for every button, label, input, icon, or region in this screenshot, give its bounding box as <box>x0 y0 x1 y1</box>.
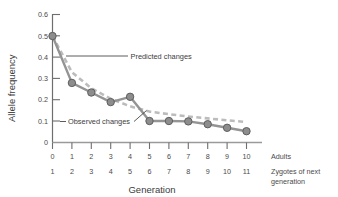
x-tick-zygotes-5: 5 <box>128 167 132 176</box>
x-axis-title: Generation <box>128 184 175 195</box>
x-tick-adults-1: 1 <box>70 152 74 161</box>
series-predicted-changes-line <box>53 36 247 122</box>
observed-changes-label: Observed changes <box>68 117 130 126</box>
data-point <box>243 128 250 135</box>
x-tick-adults-8: 8 <box>206 152 210 161</box>
x-tick-adults-10: 10 <box>243 152 251 161</box>
row-label-adults: Adults <box>271 152 291 161</box>
x-tick-zygotes-2: 2 <box>70 167 74 176</box>
data-point <box>223 124 230 131</box>
data-point <box>185 118 192 125</box>
data-point <box>146 117 153 124</box>
data-point <box>88 89 95 96</box>
x-tick-adults-5: 5 <box>148 152 152 161</box>
x-tick-adults-4: 4 <box>128 152 132 161</box>
data-point <box>165 117 172 124</box>
x-axis-ticks <box>53 143 247 150</box>
row-label-zygotes-line1: Zygotes of next <box>271 167 320 176</box>
allele-frequency-line-chart: 0.6 0.5 0.4 0.3 0.2 0.1 0 Allele frequen… <box>0 0 338 197</box>
x-tick-zygotes-8: 8 <box>186 167 190 176</box>
x-tick-zygotes-10: 10 <box>223 167 231 176</box>
y-tick-label-0: 0 <box>44 138 48 147</box>
y-tick-label-0.6: 0.6 <box>38 10 48 19</box>
y-tick-label-0.3: 0.3 <box>38 74 48 83</box>
data-point <box>204 121 211 128</box>
x-tick-adults-6: 6 <box>167 152 171 161</box>
x-tick-adults-0: 0 <box>51 152 55 161</box>
data-point <box>49 32 56 39</box>
predicted-changes-label: Predicted changes <box>131 52 193 61</box>
y-tick-label-0.2: 0.2 <box>38 95 48 104</box>
x-tick-zygotes-7: 7 <box>167 167 171 176</box>
x-tick-labels-zygotes: 1 2 3 4 5 6 7 8 9 10 11 <box>51 167 251 176</box>
x-tick-zygotes-11: 11 <box>243 167 250 176</box>
y-axis-ticks <box>53 15 61 122</box>
x-tick-adults-7: 7 <box>186 152 190 161</box>
x-tick-zygotes-3: 3 <box>89 167 93 176</box>
x-tick-zygotes-4: 4 <box>109 167 113 176</box>
chart-figure: 0.6 0.5 0.4 0.3 0.2 0.1 0 Allele frequen… <box>0 0 338 197</box>
y-tick-label-0.4: 0.4 <box>38 53 48 62</box>
x-tick-labels-adults: 0 1 2 3 4 5 6 7 8 9 10 <box>51 152 251 161</box>
x-tick-adults-3: 3 <box>109 152 113 161</box>
y-tick-label-0.1: 0.1 <box>38 117 48 126</box>
y-axis-title: Allele frequency <box>6 54 17 122</box>
y-tick-label-0.5: 0.5 <box>38 32 48 41</box>
x-tick-zygotes-1: 1 <box>51 167 55 176</box>
x-tick-adults-9: 9 <box>225 152 229 161</box>
x-tick-zygotes-9: 9 <box>206 167 210 176</box>
x-tick-adults-2: 2 <box>89 152 93 161</box>
data-point <box>126 93 133 100</box>
row-label-zygotes-line2: generation <box>271 177 305 186</box>
data-point <box>107 98 114 105</box>
data-point <box>68 79 75 86</box>
x-tick-zygotes-6: 6 <box>148 167 152 176</box>
